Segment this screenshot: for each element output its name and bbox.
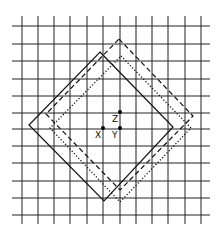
point-x <box>101 126 105 130</box>
point-label-y: Y <box>111 130 118 140</box>
point-label-x: X <box>95 130 101 140</box>
diagram-canvas: XYZ <box>0 0 222 235</box>
point-label-z: Z <box>112 114 118 124</box>
labeled-points: XYZ <box>95 110 122 140</box>
point-z <box>118 110 122 114</box>
solid-square <box>29 52 173 201</box>
grid-diagram: XYZ <box>0 0 222 235</box>
point-y <box>118 126 122 130</box>
